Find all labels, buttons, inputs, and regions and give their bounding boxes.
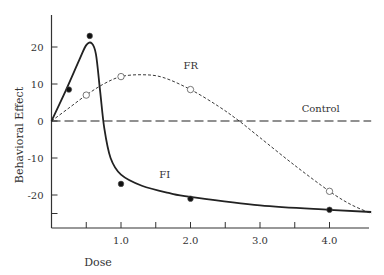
y-tick-label: -20 <box>27 190 43 201</box>
x-tick-label: 3.0 <box>252 235 268 246</box>
y-tick-label: 0 <box>37 116 43 127</box>
fr-data-point <box>83 92 89 98</box>
x-axis-label: Dose <box>84 256 112 269</box>
fi-series-label: FI <box>159 169 170 180</box>
fr-series-label: FR <box>184 60 199 71</box>
y-tick-label: 10 <box>31 79 44 90</box>
fi-data-point <box>188 196 194 202</box>
y-tick-label: -10 <box>27 153 43 164</box>
fr-data-point <box>326 188 332 194</box>
fr-curve <box>52 75 372 214</box>
fi-data-point <box>327 207 333 213</box>
fi-data-point <box>87 33 93 39</box>
fi-data-point <box>118 181 124 187</box>
x-tick-label: 4.0 <box>322 235 338 246</box>
axes: 20100-10-201.02.03.04.0 <box>27 15 369 246</box>
dose-response-chart: 20100-10-201.02.03.04.0 Dose Behavioral … <box>0 0 384 275</box>
series-layer <box>52 33 372 213</box>
fi-data-point <box>66 87 72 93</box>
x-tick-label: 1.0 <box>113 235 129 246</box>
control-series-label: Control <box>302 103 340 114</box>
fi-curve <box>52 42 372 212</box>
y-tick-label: 20 <box>31 42 44 53</box>
x-tick-label: 2.0 <box>183 235 199 246</box>
y-axis-label: Behavioral Effect <box>13 86 26 183</box>
fr-data-point <box>187 86 193 92</box>
fr-data-point <box>118 73 124 79</box>
